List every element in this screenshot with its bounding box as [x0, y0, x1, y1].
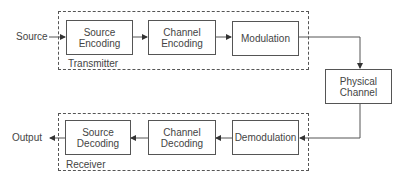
transmitter-label: Transmitter: [68, 58, 118, 69]
source-input-label: Source: [16, 31, 48, 42]
block-label-line2: Decoding: [161, 138, 203, 149]
source-encoding-block: Source Encoding: [66, 20, 133, 55]
source-decoding-block: Source Decoding: [65, 120, 131, 155]
block-label-line2: Encoding: [161, 38, 203, 49]
block-label-line1: Source: [77, 127, 119, 138]
block-label-line1: Demodulation: [235, 132, 297, 143]
physical-channel-block: Physical Channel: [325, 69, 392, 104]
block-label-line1: Modulation: [241, 33, 290, 44]
demodulation-block: Demodulation: [232, 120, 299, 155]
block-label-line2: Encoding: [79, 38, 121, 49]
block-label-line2: Decoding: [77, 138, 119, 149]
channel-encoding-block: Channel Encoding: [148, 20, 216, 55]
block-label-line2: Channel: [340, 87, 377, 98]
modulation-block: Modulation: [232, 21, 299, 56]
receiver-label: Receiver: [66, 159, 105, 170]
output-label: Output: [12, 132, 42, 143]
block-label-line1: Channel: [161, 27, 203, 38]
block-label-line1: Source: [79, 27, 121, 38]
arrow-channel-to-demodulation: [300, 104, 360, 138]
channel-decoding-block: Channel Decoding: [148, 120, 216, 155]
block-label-line1: Physical: [340, 76, 377, 87]
block-label-line1: Channel: [161, 127, 203, 138]
